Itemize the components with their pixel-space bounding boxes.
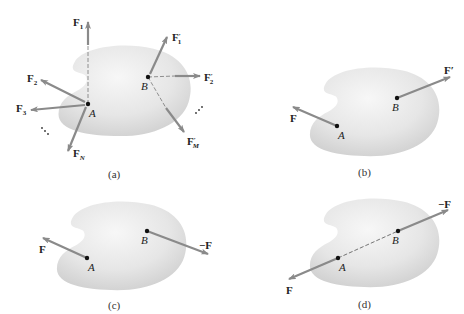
- force-f-label: F: [39, 243, 46, 255]
- force-f-label: F: [286, 284, 293, 296]
- panel-d-caption: (d): [358, 298, 371, 311]
- point-a: [85, 256, 89, 260]
- force-f-label: F: [290, 112, 297, 124]
- point-b-label: B: [141, 234, 148, 246]
- point-a-label: A: [88, 107, 96, 119]
- panel-b: A B F F′ (b): [290, 64, 454, 179]
- point-a-label: A: [87, 261, 95, 273]
- rigid-body-shape: [57, 201, 186, 290]
- point-a: [86, 102, 90, 106]
- force-fp1-label: F′1: [172, 31, 182, 46]
- force-f1-label: F1: [73, 16, 84, 31]
- point-b-label: B: [392, 234, 399, 246]
- rigid-body-forces-figure: A B F1 F2 F3 FN F′1 F′2 F′M (a) A B F F′…: [0, 0, 464, 314]
- rigid-body-shape: [310, 198, 439, 287]
- force-f2-label: F2: [27, 72, 38, 87]
- force-fp2-label: F′2: [204, 71, 214, 86]
- force-fn-label: FN: [73, 147, 86, 162]
- ellipsis-dots-left: [41, 127, 49, 135]
- panel-a: A B F1 F2 F3 FN F′1 F′2 F′M (a): [16, 16, 214, 181]
- force-f3-label: F3: [16, 102, 27, 117]
- panel-c: A B F −F (c): [39, 201, 212, 312]
- point-a-label: A: [338, 261, 346, 273]
- force-fpm-label: F′M: [187, 135, 200, 150]
- ellipsis-dots-right: [195, 106, 203, 114]
- point-b-label: B: [392, 101, 399, 113]
- force-neg-f-label: −F: [199, 239, 212, 251]
- force-f-prime-label: F′: [444, 64, 454, 76]
- point-b: [146, 75, 150, 79]
- point-a-label: A: [337, 129, 345, 141]
- point-b: [396, 229, 400, 233]
- point-b-label: B: [141, 80, 148, 92]
- point-a: [336, 256, 340, 260]
- panel-c-caption: (c): [108, 299, 121, 312]
- force-neg-f-label: −F: [438, 198, 451, 210]
- point-b: [145, 229, 149, 233]
- rigid-body-shape: [59, 46, 191, 137]
- rigid-body-shape: [310, 67, 439, 156]
- point-a: [335, 124, 339, 128]
- panel-d: A B F −F (d): [286, 198, 451, 311]
- panel-b-caption: (b): [358, 166, 371, 179]
- panel-a-caption: (a): [108, 168, 121, 181]
- point-b: [395, 96, 399, 100]
